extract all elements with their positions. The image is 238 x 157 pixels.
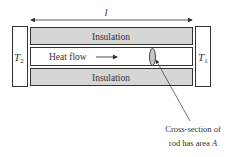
heat-conduction-diagram: l T2 T1 Insulation Heat flow Insulation … [0, 0, 238, 157]
top-insulation: Insulation [31, 28, 193, 45]
right-reservoir: T1 [196, 27, 211, 87]
caption-line-1: Cross-section of [165, 124, 221, 134]
heat-flow-label: Heat flow [49, 52, 87, 62]
top-insulation-label: Insulation [92, 32, 130, 42]
length-label: l [104, 6, 107, 18]
bottom-insulation-label: Insulation [92, 73, 130, 83]
length-dimension: l [31, 6, 192, 20]
caption-line-2: rod has area A [169, 138, 218, 148]
cross-section-caption: Cross-section of rod has area A [165, 124, 221, 148]
bottom-insulation: Insulation [31, 69, 193, 86]
rod: Heat flow [31, 48, 193, 66]
cross-section-ellipse [150, 49, 156, 66]
left-reservoir: T2 [13, 27, 28, 87]
